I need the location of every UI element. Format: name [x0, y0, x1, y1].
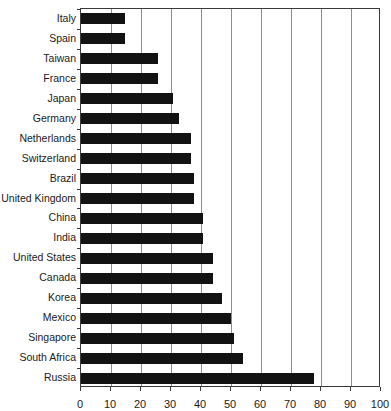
chart-title	[0, 0, 391, 2]
x-axis-tick-label: 100	[360, 398, 391, 411]
y-axis-label-india: India	[0, 231, 76, 243]
x-axis: 0102030405060708090100	[80, 8, 380, 411]
x-axis-tick	[140, 387, 141, 391]
y-axis-label-japan: Japan	[0, 92, 76, 104]
bar-chart: ItalySpainTaiwanFranceJapanGermanyNether…	[0, 0, 391, 411]
x-axis-tick	[170, 387, 171, 391]
y-axis-label-canada: Canada	[0, 271, 76, 283]
x-axis-tick	[380, 387, 381, 391]
y-axis-label-russia: Russia	[0, 371, 76, 383]
y-axis-category-labels: ItalySpainTaiwanFranceJapanGermanyNether…	[0, 8, 76, 387]
y-axis-label-taiwan: Taiwan	[0, 52, 76, 64]
y-axis-label-france: France	[0, 72, 76, 84]
x-axis-tick	[260, 387, 261, 391]
y-axis-label-italy: Italy	[0, 12, 76, 24]
x-axis-tick	[350, 387, 351, 391]
x-axis-tick	[200, 387, 201, 391]
y-axis-label-mexico: Mexico	[0, 311, 76, 323]
x-axis-tick	[110, 387, 111, 391]
y-axis-label-singapore: Singapore	[0, 331, 76, 343]
x-axis-tick	[80, 387, 81, 391]
x-axis-tick	[290, 387, 291, 391]
y-axis-label-brazil: Brazil	[0, 172, 76, 184]
y-axis-label-united-states: United States	[0, 251, 76, 263]
x-axis-tick	[230, 387, 231, 391]
y-axis-label-switzerland: Switzerland	[0, 152, 76, 164]
y-axis-label-korea: Korea	[0, 291, 76, 303]
y-axis-label-united-kingdom: United Kingdom	[0, 192, 76, 204]
y-axis-label-netherlands: Netherlands	[0, 132, 76, 144]
y-axis-label-spain: Spain	[0, 32, 76, 44]
y-axis-label-china: China	[0, 211, 76, 223]
y-axis-label-south-africa: South Africa	[0, 351, 76, 363]
y-axis-label-germany: Germany	[0, 112, 76, 124]
x-axis-tick	[320, 387, 321, 391]
